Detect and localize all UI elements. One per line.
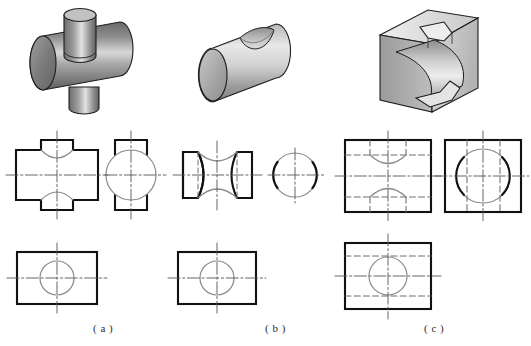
views-group-c <box>335 131 529 319</box>
view-a-front <box>6 131 108 219</box>
view-b-side <box>268 148 324 203</box>
orthographic-layer <box>0 0 531 346</box>
view-b-top <box>168 243 266 313</box>
caption-c: ( c ) <box>424 322 444 334</box>
view-c-top <box>335 234 441 319</box>
view-a-side <box>105 131 166 219</box>
caption-a: ( a ) <box>93 322 113 334</box>
view-a-top <box>7 243 107 313</box>
view-c-side <box>435 131 529 222</box>
drawing-sheet: ( a ) ( b ) ( c ) <box>0 0 531 346</box>
view-b-front <box>173 141 262 210</box>
views-group-b <box>168 141 324 313</box>
caption-b: ( b ) <box>265 322 286 334</box>
view-c-front <box>335 131 441 222</box>
views-group-a <box>6 131 166 313</box>
